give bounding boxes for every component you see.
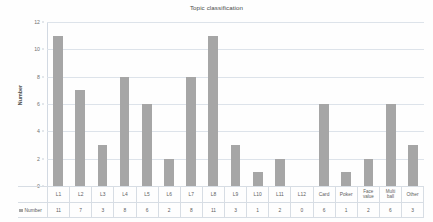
y-tick-mark-10 bbox=[42, 49, 44, 50]
data-table-value-cell: 1 bbox=[246, 203, 268, 217]
y-tick-mark-12 bbox=[42, 22, 44, 23]
bar[interactable] bbox=[253, 172, 263, 186]
data-table-value-row: Number 1173862811312061263 bbox=[18, 202, 424, 218]
data-table-value-cell: 7 bbox=[69, 203, 91, 217]
data-table-category-cell: Face value bbox=[357, 187, 379, 202]
data-table-category-cell: L10 bbox=[246, 187, 268, 202]
y-tick-8: 8 bbox=[37, 74, 40, 80]
plot-area bbox=[47, 22, 424, 186]
bar-slot bbox=[136, 22, 158, 186]
bar[interactable] bbox=[164, 159, 174, 186]
data-table-category-cell: L7 bbox=[180, 187, 202, 202]
data-table-value-cell: 2 bbox=[158, 203, 180, 217]
bar[interactable] bbox=[386, 104, 396, 186]
bar-slot bbox=[158, 22, 180, 186]
data-table-category-cell: Other bbox=[401, 187, 424, 202]
data-table-category-cell: L2 bbox=[69, 187, 91, 202]
data-table-value-cell: 3 bbox=[224, 203, 246, 217]
data-table-value-cell: 6 bbox=[379, 203, 401, 217]
bar-slot bbox=[291, 22, 313, 186]
y-tick-2: 2 bbox=[37, 156, 40, 162]
chart-container: Topic classification Number 024681012 L1… bbox=[0, 0, 433, 222]
bar-slot bbox=[91, 22, 113, 186]
bar-slot bbox=[335, 22, 357, 186]
bar-slot bbox=[47, 22, 69, 186]
data-table-value-cell: 11 bbox=[47, 203, 69, 217]
y-axis-tick-labels: 024681012 bbox=[0, 22, 44, 186]
data-table-value-cell: 11 bbox=[202, 203, 224, 217]
bar[interactable] bbox=[319, 104, 329, 186]
y-tick-mark-6 bbox=[42, 104, 44, 105]
y-tick-10: 10 bbox=[34, 46, 40, 52]
bar[interactable] bbox=[231, 145, 241, 186]
data-table-value-cell: 8 bbox=[180, 203, 202, 217]
bar[interactable] bbox=[53, 36, 63, 186]
y-tick-mark-2 bbox=[42, 158, 44, 159]
bar-slot bbox=[357, 22, 379, 186]
data-table-value-cell: 3 bbox=[91, 203, 113, 217]
data-table-category-cell: L1 bbox=[47, 187, 69, 202]
data-table-category-cell: Multi ball bbox=[379, 187, 401, 202]
bar[interactable] bbox=[98, 145, 108, 186]
data-table-category-cell: L12 bbox=[290, 187, 312, 202]
bar-series bbox=[47, 22, 424, 186]
bar[interactable] bbox=[408, 145, 418, 186]
bar[interactable] bbox=[364, 159, 374, 186]
bar-slot bbox=[114, 22, 136, 186]
data-table-value-cell: 2 bbox=[357, 203, 379, 217]
y-tick-mark-4 bbox=[42, 131, 44, 132]
data-table-category-cell: Poker bbox=[335, 187, 357, 202]
data-table-row-header-label: Number bbox=[25, 208, 42, 213]
data-table-corner-cell bbox=[18, 187, 47, 202]
data-table-value-cell: 6 bbox=[313, 203, 335, 217]
bar-slot bbox=[380, 22, 402, 186]
chart-title: Topic classification bbox=[0, 4, 433, 11]
data-table-value-cell: 0 bbox=[290, 203, 312, 217]
bar-slot bbox=[69, 22, 91, 186]
bar[interactable] bbox=[75, 90, 85, 186]
y-tick-mark-8 bbox=[42, 76, 44, 77]
y-tick-6: 6 bbox=[37, 101, 40, 107]
data-table-value-cell: 8 bbox=[113, 203, 135, 217]
bar-slot bbox=[202, 22, 224, 186]
bar-slot bbox=[402, 22, 424, 186]
bar[interactable] bbox=[142, 104, 152, 186]
bar-slot bbox=[247, 22, 269, 186]
bar-slot bbox=[224, 22, 246, 186]
data-table-category-row: L1L2L3L4L5L6L7L8L9L10L11L12CardPokerFace… bbox=[18, 186, 424, 202]
data-table-value-cell: 6 bbox=[136, 203, 158, 217]
y-tick-12: 12 bbox=[34, 19, 40, 25]
bar-slot bbox=[313, 22, 335, 186]
data-table-category-cell: L8 bbox=[202, 187, 224, 202]
data-table-category-cell: L6 bbox=[158, 187, 180, 202]
data-table-category-cell: L4 bbox=[113, 187, 135, 202]
data-table-value-cell: 3 bbox=[401, 203, 424, 217]
bar[interactable] bbox=[186, 77, 196, 186]
data-table-category-cell: Card bbox=[313, 187, 335, 202]
bar-slot bbox=[269, 22, 291, 186]
bar-slot bbox=[180, 22, 202, 186]
bar[interactable] bbox=[275, 159, 285, 186]
data-table-category-cell: L11 bbox=[268, 187, 290, 202]
y-tick-4: 4 bbox=[37, 128, 40, 134]
series-color-swatch bbox=[19, 209, 23, 212]
data-table-category-cell: L5 bbox=[136, 187, 158, 202]
data-table-category-cell: L3 bbox=[91, 187, 113, 202]
bar[interactable] bbox=[208, 36, 218, 186]
bar[interactable] bbox=[120, 77, 130, 186]
data-table-value-cell: 2 bbox=[268, 203, 290, 217]
data-table-category-cell: L9 bbox=[224, 187, 246, 202]
data-table-row-header: Number bbox=[18, 203, 47, 217]
bar[interactable] bbox=[341, 172, 351, 186]
data-table: L1L2L3L4L5L6L7L8L9L10L11L12CardPokerFace… bbox=[18, 186, 424, 218]
data-table-value-cell: 1 bbox=[335, 203, 357, 217]
